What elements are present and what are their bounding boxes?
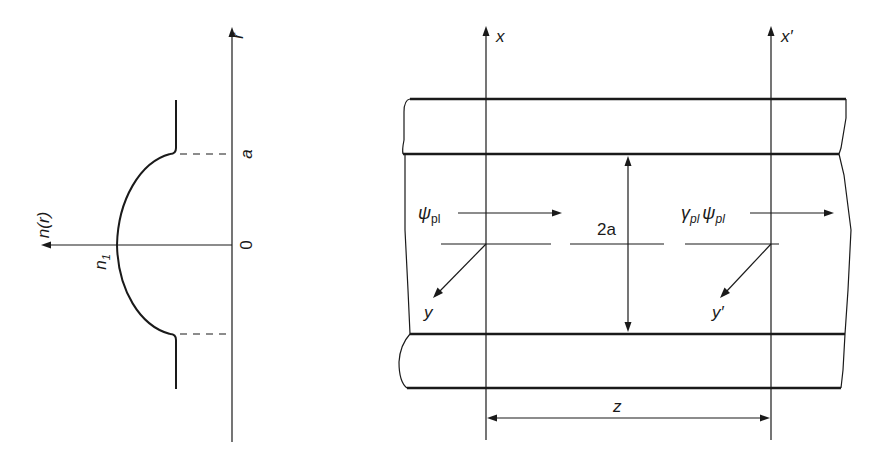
output-field-label: γplψpl <box>681 203 725 226</box>
cladding-bottom-right-break <box>841 334 845 388</box>
input-propagation-arrowhead <box>552 210 562 217</box>
x-prime-axis-label: x′ <box>780 27 794 46</box>
propagation-length-arrowhead-right <box>760 415 770 422</box>
core-width-label: 2a <box>597 220 616 239</box>
core-width-arrowhead-top <box>625 156 632 166</box>
x-prime-axis-arrowhead <box>768 26 775 36</box>
y-prime-axis-output <box>726 244 771 292</box>
cladding-top-right-break <box>839 99 846 154</box>
fiber-mode-diagram: r n(r) a 0 n1 <box>0 0 870 461</box>
cladding-bottom-left-break <box>399 334 410 388</box>
tick-label-zero: 0 <box>237 240 256 249</box>
tick-label-a: a <box>237 149 256 158</box>
y-prime-axis-label: y′ <box>711 303 725 322</box>
core-right-break <box>839 154 851 334</box>
waveguide-section: x x′ 2a ψpl γplψpl y <box>399 26 851 440</box>
input-field-label: ψpl <box>418 203 440 226</box>
cladding-top-left-break <box>403 99 410 154</box>
propagation-length-arrowhead-left <box>487 415 497 422</box>
y-axis-input <box>439 244 486 292</box>
n-axis-label: n(r) <box>34 212 53 238</box>
n1-label: n1 <box>91 254 112 270</box>
output-propagation-arrowhead <box>824 210 834 217</box>
x-axis-label: x <box>495 27 505 46</box>
y-axis-label: y <box>423 303 434 322</box>
core-width-arrowhead-bottom <box>625 322 632 332</box>
index-profile-plot: r n(r) a 0 n1 <box>34 27 256 442</box>
propagation-length-label: z <box>612 397 622 416</box>
cladding-profile-lower <box>170 334 176 389</box>
core-index-profile-curve <box>117 154 170 334</box>
core-left-break <box>405 154 410 334</box>
cladding-profile-upper <box>170 100 176 154</box>
n-axis-arrowhead <box>41 242 51 249</box>
x-axis-arrowhead <box>483 26 490 36</box>
